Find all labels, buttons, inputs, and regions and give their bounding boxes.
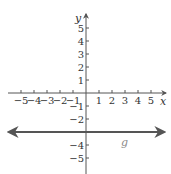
y-tick-label: 1 xyxy=(78,75,84,86)
x-tick-label: 4 xyxy=(135,95,141,106)
x-tick-label: 1 xyxy=(96,95,102,106)
coordinate-plane: −5−4−3−2−112345 54321−1−2−4−5 x y g xyxy=(0,0,171,174)
y-tick-label: 4 xyxy=(78,36,84,47)
x-axis-label: x xyxy=(160,95,167,108)
y-tick-label: −1 xyxy=(69,101,84,112)
y-tick-label: −5 xyxy=(69,153,84,164)
x-tick-label: 3 xyxy=(122,95,128,106)
y-tick-label: −4 xyxy=(69,140,84,151)
x-tick-label: 5 xyxy=(148,95,154,106)
y-axis-label: y xyxy=(74,12,82,25)
y-tick-label: 2 xyxy=(78,62,84,73)
x-tick-label: 2 xyxy=(109,95,115,106)
y-tick-label: −2 xyxy=(69,114,84,125)
y-tick-label: 3 xyxy=(78,49,84,60)
series-label-g: g xyxy=(121,136,128,149)
